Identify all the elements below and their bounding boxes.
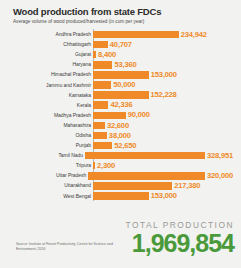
bar: [93, 91, 149, 98]
bar-value-label: 32,600: [107, 122, 129, 130]
bar-track: 153,000: [93, 70, 233, 80]
bar-row: Haryana53,360: [8, 60, 233, 70]
bar-row: Uttarakhand217,380: [8, 181, 233, 191]
bar-track: 328,951: [85, 151, 233, 161]
bar-category-label: Odisha: [8, 133, 93, 138]
bar-row: Karnataka152,228: [8, 90, 233, 100]
bar-category-label: Chhattisgarh: [8, 42, 93, 47]
bar: [93, 182, 172, 189]
bar: [93, 112, 126, 119]
bar-value-label: 8,400: [98, 51, 116, 59]
bar-category-label: Tamil Nadu: [8, 153, 85, 158]
bar-category-label: Haryana: [8, 62, 93, 67]
bar: [93, 132, 107, 139]
bar-value-label: 153,000: [151, 71, 177, 79]
bar: [93, 51, 96, 58]
bar-value-label: 42,336: [110, 101, 132, 109]
bar-value-label: 90,000: [128, 111, 150, 119]
bar-value-label: 152,228: [151, 91, 177, 99]
bar: [88, 172, 205, 179]
bar-category-label: Andhra Pradesh: [8, 32, 93, 37]
bar-value-label: 2,300: [97, 162, 115, 170]
bar-category-label: Madhya Pradesh: [8, 113, 93, 118]
bar-track: 217,380: [93, 181, 233, 191]
bar-category-label: Gujarat: [8, 52, 93, 57]
bar-value-label: 40,707: [110, 41, 132, 49]
bar-category-label: Himachal Pradesh: [8, 72, 93, 77]
bar: [93, 101, 108, 108]
bar-track: 152,228: [93, 90, 233, 100]
bar-category-label: Maharashtra: [8, 123, 93, 128]
bar-track: 53,360: [93, 60, 233, 70]
bar: [93, 142, 112, 149]
bar-value-label: 153,000: [151, 192, 177, 200]
bar-row: Uttar Pradesh320,000: [8, 171, 233, 181]
bar-track: 50,000: [93, 80, 233, 90]
bar-track: 40,707: [93, 40, 233, 50]
bar-plot-area: Andhra Pradesh234,942Chhattisgarh40,707G…: [8, 29, 233, 201]
bar-rows: Andhra Pradesh234,942Chhattisgarh40,707G…: [8, 29, 233, 201]
bar-row: West Bengal153,000: [8, 191, 233, 201]
bar: [93, 192, 149, 199]
bar-track: 42,336: [93, 100, 233, 110]
bar: [93, 61, 112, 68]
bar-track: 8,400: [93, 50, 233, 60]
bar: [93, 162, 95, 169]
chart-title: Wood production from state FDCs: [13, 7, 233, 17]
bar: [93, 41, 108, 48]
bar-value-label: 234,942: [181, 31, 207, 39]
bar-track: 90,000: [93, 110, 233, 120]
bar: [93, 71, 149, 78]
bar-value-label: 320,000: [207, 172, 233, 180]
bar-value-label: 53,360: [114, 61, 136, 69]
bar-category-label: Uttar Pradesh: [8, 173, 88, 178]
bar-category-label: Kerala: [8, 103, 93, 108]
bar-track: 153,000: [93, 191, 233, 201]
bar-row: Tamil Nadu328,951: [8, 151, 233, 161]
bar-row: Punjab52,650: [8, 141, 233, 151]
bar-row: Chhattisgarh40,707: [8, 40, 233, 50]
bar-row: Gujarat8,400: [8, 50, 233, 60]
bar-category-label: Uttarakhand: [8, 183, 93, 188]
bar: [93, 31, 179, 38]
bar: [93, 122, 105, 129]
bar-track: 234,942: [93, 29, 233, 39]
bar-value-label: 217,380: [174, 182, 200, 190]
total-production-value: 1,969,854: [125, 231, 234, 256]
bar-category-label: Karnataka: [8, 93, 93, 98]
chart-subtitle: Average volume of wood produced/harveste…: [13, 19, 233, 24]
bar-row: Madhya Pradesh90,000: [8, 110, 233, 120]
bar-row: Himachal Pradesh153,000: [8, 70, 233, 80]
total-production-label: TOTAL PRODUCTION: [125, 221, 234, 229]
bar: [85, 152, 205, 159]
bar-row: Tripura2,300: [8, 161, 233, 171]
bar-row: Andhra Pradesh234,942: [8, 29, 233, 39]
wood-production-chart: Wood production from state FDCs Average …: [0, 0, 241, 268]
total-production-block: TOTAL PRODUCTION 1,969,854: [125, 221, 234, 256]
bar-category-label: West Bengal: [8, 194, 93, 199]
bar-value-label: 38,000: [109, 132, 131, 140]
bar: [93, 81, 111, 88]
bar-row: Odisha38,000: [8, 130, 233, 140]
bar-value-label: 52,650: [114, 142, 136, 150]
bar-value-label: 50,000: [113, 81, 135, 89]
bar-track: 2,300: [93, 161, 233, 171]
bar-row: Jammu and Kashmir50,000: [8, 80, 233, 90]
bar-track: 32,600: [93, 120, 233, 130]
bar-row: Kerala42,336: [8, 100, 233, 110]
bar-track: 38,000: [93, 130, 233, 140]
bar-track: 52,650: [93, 141, 233, 151]
bar-track: 320,000: [88, 171, 233, 181]
bar-category-label: Tripura: [8, 163, 93, 168]
bar-row: Maharashtra32,600: [8, 120, 233, 130]
bar-value-label: 328,951: [207, 152, 233, 160]
bar-category-label: Punjab: [8, 143, 93, 148]
bar-category-label: Jammu and Kashmir: [8, 83, 93, 88]
source-citation: Source: Institute of Forest Productivity…: [16, 242, 116, 252]
chart-footer: Source: Institute of Forest Productivity…: [0, 216, 241, 268]
